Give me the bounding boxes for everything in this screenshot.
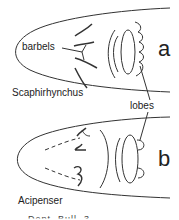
label-barbels: barbels — [22, 42, 55, 52]
label-lobes: lobes — [130, 101, 154, 111]
panel-letter-b: b — [158, 148, 170, 170]
genus-label-b: Acipenser — [18, 196, 62, 206]
head-outline-b — [17, 117, 170, 198]
genus-label-a: Scaphirhynchus — [12, 88, 83, 98]
panel-letter-a: a — [158, 38, 170, 60]
sturgeon-head-diagram: barbels a Scaphirhynchus lobes b Acipens… — [0, 0, 179, 220]
